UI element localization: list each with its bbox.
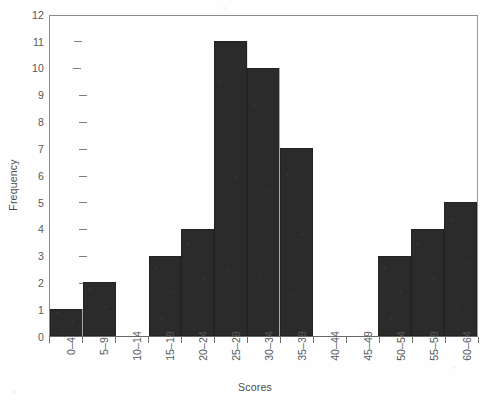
x-tick-25-29: 25–29 [214, 337, 247, 387]
bar-slot [346, 16, 379, 336]
x-tick-30-34: 30–34 [247, 337, 280, 387]
x-tick-label: 30–34 [263, 331, 274, 361]
bar-slot [411, 16, 444, 336]
x-tick-0-4: 0–4 [49, 337, 82, 387]
bar [444, 202, 477, 336]
bar [149, 256, 182, 337]
x-tick-mark [280, 337, 281, 343]
bar-slot [83, 16, 116, 336]
x-tick-20-24: 20–24 [181, 337, 214, 387]
x-tick-mark [247, 337, 248, 343]
bar-slot [247, 16, 280, 336]
histogram-figure: Frequency 0123456789101112 0–45–910–1415… [0, 0, 488, 408]
y-tick-label: 8 [38, 117, 49, 128]
x-tick-mark [148, 337, 149, 343]
bar-slot [50, 16, 83, 336]
x-tick-label: 55–59 [428, 331, 439, 361]
y-tick-label: 2 [38, 278, 49, 289]
x-tick-label: 40–44 [329, 331, 340, 361]
y-tick-label: 0 [38, 332, 49, 343]
x-tick-mark [115, 337, 116, 343]
y-tick-label: 9 [38, 90, 49, 101]
x-tick-60-64: 60–64 [445, 337, 478, 387]
bar [214, 41, 247, 336]
x-axis-ticks: 0–45–910–1415–1920–2425–2930–3435–3940–4… [49, 337, 478, 387]
x-tick-40-44: 40–44 [313, 337, 346, 387]
bar [280, 148, 313, 336]
bar-slot [313, 16, 346, 336]
x-tick-45-49: 45–49 [346, 337, 379, 387]
y-tick-label: 7 [38, 144, 49, 155]
x-tick-10-14: 10–14 [115, 337, 148, 387]
x-tick-mark [379, 337, 380, 343]
bar [378, 256, 411, 337]
bar-slot [378, 16, 411, 336]
x-tick-label: 15–19 [164, 331, 175, 361]
bar-slot [116, 16, 149, 336]
y-axis-ticks: 0123456789101112 [0, 0, 49, 338]
x-tick-label: 20–24 [197, 331, 208, 361]
x-tick-label: 50–54 [395, 331, 406, 361]
x-tick-mark [445, 337, 446, 343]
x-axis-title: Scores [0, 381, 488, 393]
x-tick-mark-end [478, 337, 479, 343]
bar-slot [444, 16, 477, 336]
x-tick-55-59: 55–59 [412, 337, 445, 387]
bar [247, 68, 280, 336]
x-axis-title-label: Scores [238, 381, 272, 393]
bar [411, 229, 444, 336]
y-tick-label: 10 [32, 63, 49, 74]
x-tick-5-9: 5–9 [82, 337, 115, 387]
x-tick-mark [412, 337, 413, 343]
bar-slot [181, 16, 214, 336]
x-tick-mark [313, 337, 314, 343]
x-tick-mark [214, 337, 215, 343]
x-tick-mark [346, 337, 347, 343]
y-tick-label: 11 [33, 37, 49, 48]
y-tick-label: 5 [38, 198, 49, 209]
bar [181, 229, 214, 336]
x-tick-mark [82, 337, 83, 343]
y-tick-label: 6 [38, 171, 49, 182]
x-tick-35-39: 35–39 [280, 337, 313, 387]
plot-area [49, 15, 478, 337]
x-tick-label: 5–9 [98, 337, 109, 355]
x-tick-label: 25–29 [230, 331, 241, 361]
x-tick-label: 60–64 [461, 331, 472, 361]
y-tick-label: 3 [38, 251, 49, 262]
y-tick-label: 12 [32, 10, 49, 21]
bar-slot [280, 16, 313, 336]
bar-slot [214, 16, 247, 336]
y-tick-label: 4 [38, 224, 49, 235]
x-tick-label: 0–4 [65, 337, 76, 355]
x-tick-mark [49, 337, 50, 343]
x-tick-label: 35–39 [296, 331, 307, 361]
bar-slot [149, 16, 182, 336]
x-tick-50-54: 50–54 [379, 337, 412, 387]
bar [83, 282, 116, 336]
x-tick-label: 45–49 [362, 331, 373, 361]
x-tick-15-19: 15–19 [148, 337, 181, 387]
x-tick-mark [181, 337, 182, 343]
bar-series [50, 16, 477, 336]
x-tick-label: 10–14 [131, 331, 142, 361]
y-tick-label: 1 [38, 305, 49, 316]
bar [50, 309, 83, 336]
